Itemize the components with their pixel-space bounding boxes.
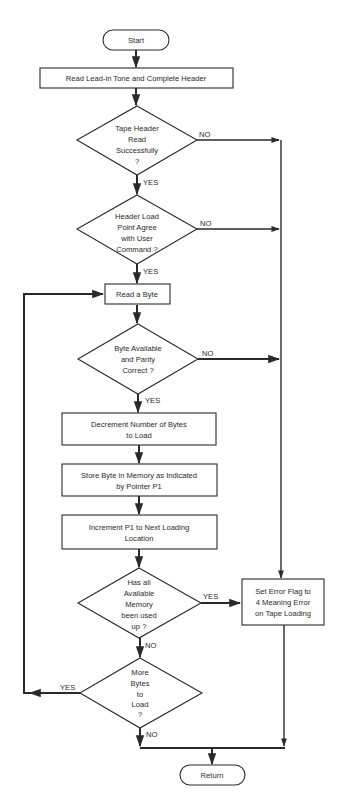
node-read-header-text: Read Lead-in Tone and Complete Header bbox=[66, 74, 207, 83]
node-error-flag-line: 4 Meaning Error bbox=[256, 598, 311, 607]
node-start-text: Start bbox=[128, 36, 145, 45]
flowchart: NO YES NO YES NO YES YES NO YES NO Start… bbox=[0, 0, 338, 803]
node-more-bytes-line: ? bbox=[138, 710, 142, 719]
node-store-line: Store Byte in Memory as Indicated bbox=[81, 471, 197, 480]
label-memory-full-no: NO bbox=[145, 641, 156, 650]
label-more-bytes-yes: YES bbox=[60, 683, 75, 692]
node-byte-ok-line: and Parity bbox=[121, 355, 155, 364]
node-header-ok-line: Read bbox=[128, 135, 146, 144]
node-read-header: Read Lead-in Tone and Complete Header bbox=[40, 68, 233, 88]
node-store: Store Byte in Memory as Indicated by Poi… bbox=[62, 464, 217, 496]
label-byte-ok-no: NO bbox=[202, 349, 213, 358]
node-memory-full-line: Has all bbox=[127, 578, 151, 587]
node-start: Start bbox=[103, 30, 169, 50]
node-load-point-line: Point Agree bbox=[117, 223, 156, 232]
node-error-flag-line: Set Error Flag to bbox=[255, 587, 311, 596]
label-more-bytes-no: NO bbox=[146, 730, 157, 739]
label-load-point-no: NO bbox=[200, 219, 211, 228]
node-memory-full-line: Memory bbox=[125, 600, 153, 609]
node-load-point-line: Command ? bbox=[116, 245, 157, 254]
node-header-ok: Tape Header Read Successfully ? bbox=[77, 106, 197, 175]
node-decrement: Decrement Number of Bytes to Load bbox=[62, 413, 216, 445]
label-memory-full-yes: YES bbox=[203, 592, 218, 601]
label-header-ok-no: NO bbox=[199, 130, 210, 139]
node-load-point-line: with User bbox=[120, 234, 153, 243]
label-header-ok-yes: YES bbox=[143, 178, 158, 187]
node-decrement-line: to Load bbox=[126, 431, 151, 440]
node-byte-ok: Byte Available and Parity Correct ? bbox=[78, 324, 198, 394]
node-more-bytes-line: Load bbox=[132, 700, 149, 709]
node-header-ok-line: Successfully bbox=[116, 146, 158, 155]
node-more-bytes-line: More bbox=[131, 668, 148, 677]
node-increment-line: Increment P1 to Next Loading bbox=[89, 523, 189, 532]
label-load-point-yes: YES bbox=[143, 267, 158, 276]
node-read-byte: Read a Byte bbox=[105, 284, 170, 304]
node-load-point-line: Header Load bbox=[115, 212, 159, 221]
node-more-bytes-line: to bbox=[137, 690, 143, 699]
node-load-point: Header Load Point Agree with User Comman… bbox=[77, 195, 197, 264]
node-memory-full-line: been used bbox=[121, 611, 156, 620]
node-more-bytes-line: Bytes bbox=[131, 679, 150, 688]
node-byte-ok-line: Correct ? bbox=[122, 366, 153, 375]
node-error-flag-line: on Tape Loading bbox=[255, 609, 311, 618]
node-header-ok-line: ? bbox=[135, 157, 139, 166]
node-read-byte-text: Read a Byte bbox=[116, 290, 158, 299]
node-decrement-line: Decrement Number of Bytes bbox=[91, 420, 187, 429]
label-byte-ok-yes: YES bbox=[145, 396, 160, 405]
node-byte-ok-line: Byte Available bbox=[114, 344, 162, 353]
node-more-bytes: More Bytes to Load ? bbox=[80, 658, 202, 728]
node-store-line: by Pointer P1 bbox=[116, 482, 162, 491]
node-error-flag: Set Error Flag to 4 Meaning Error on Tap… bbox=[242, 579, 324, 625]
node-memory-full-line: Available bbox=[124, 589, 155, 598]
node-increment: Increment P1 to Next Loading Location bbox=[62, 515, 217, 549]
node-header-ok-line: Tape Header bbox=[115, 124, 159, 133]
node-return: Return bbox=[180, 765, 245, 785]
node-increment-line: Location bbox=[125, 534, 154, 543]
node-memory-full-line: up ? bbox=[132, 622, 147, 631]
node-return-text: Return bbox=[201, 771, 224, 780]
node-memory-full: Has all Available Memory been used up ? bbox=[78, 568, 201, 638]
